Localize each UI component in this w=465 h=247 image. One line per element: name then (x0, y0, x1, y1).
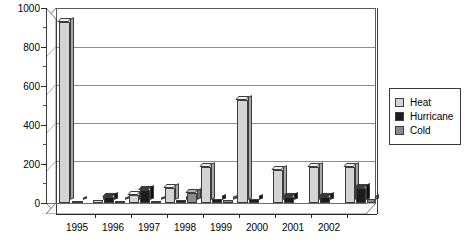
chart-legend: Heat Hurricane Cold (389, 88, 461, 145)
x-axis-label: 2002 (309, 223, 349, 233)
legend-swatch-cold-icon (395, 126, 404, 135)
x-axis-back (46, 203, 367, 204)
y-axis-label: 400 (0, 121, 40, 131)
x-tick (131, 214, 132, 218)
bar-hurricane (356, 188, 366, 203)
y-axis-label: 600 (0, 82, 40, 92)
bar-group (57, 19, 91, 203)
y-axis-label: 800 (0, 43, 40, 53)
plot-area (46, 8, 376, 214)
bar-group (271, 19, 307, 203)
bar-group (127, 19, 163, 203)
bar-heat (309, 167, 319, 203)
bar-heat (201, 167, 211, 203)
y-tick-800 (41, 47, 47, 48)
y-tick-0 (41, 203, 47, 204)
legend-item-hurricane[interactable]: Hurricane (395, 111, 456, 122)
y-tick-400 (41, 125, 47, 126)
x-tick (167, 214, 168, 218)
bar-heat (59, 22, 70, 203)
bar-chart: 1000 800 600 400 200 0 1995 1996 1997 19… (0, 0, 465, 247)
x-axis-label: 1996 (93, 223, 133, 233)
legend-label: Cold (410, 125, 431, 136)
x-axis-label: 1998 (165, 223, 205, 233)
bar-cold (187, 193, 197, 203)
bar-group (163, 19, 199, 203)
x-axis-label: 2001 (273, 223, 313, 233)
bar-heat (345, 167, 355, 203)
x-tick (203, 214, 204, 218)
bar-group (307, 19, 343, 203)
x-tick (311, 214, 312, 218)
legend-swatch-hurricane-icon (395, 112, 404, 121)
x-axis (56, 214, 377, 215)
y-tick-200 (41, 164, 47, 165)
legend-item-heat[interactable]: Heat (395, 97, 456, 108)
y-tick-1000 (41, 8, 47, 9)
bars-container (57, 19, 375, 203)
bar-hurricane (140, 190, 150, 203)
bar-heat (165, 188, 175, 203)
x-axis-label: 2000 (237, 223, 277, 233)
bar-cold (367, 199, 375, 203)
legend-label: Heat (410, 97, 431, 108)
bar-heat (273, 170, 283, 203)
x-tick (275, 214, 276, 218)
y-tick-minor-100 (43, 183, 47, 184)
y-axis-back (46, 8, 47, 204)
x-tick (95, 214, 96, 218)
y-tick-minor-900 (43, 27, 47, 28)
bar-heat (237, 100, 248, 203)
x-axis-label: 1995 (57, 223, 97, 233)
legend-item-cold[interactable]: Cold (395, 125, 456, 136)
x-tick (347, 214, 348, 218)
y-tick-minor-300 (43, 144, 47, 145)
bar-group (199, 19, 235, 203)
y-axis-right (377, 8, 378, 214)
bar-group (235, 19, 271, 203)
y-axis-label: 0 (0, 199, 40, 209)
bar-group (343, 19, 375, 203)
x-axis-label: 1999 (201, 223, 241, 233)
y-axis-label: 200 (0, 160, 40, 170)
bar-group (91, 19, 127, 203)
y-axis-label: 1000 (0, 4, 40, 14)
x-tick (239, 214, 240, 218)
y-tick-minor-500 (43, 105, 47, 106)
x-axis-label: 1997 (129, 223, 169, 233)
y-tick-minor-700 (43, 66, 47, 67)
bar-heat (129, 195, 139, 203)
legend-label: Hurricane (410, 111, 453, 122)
legend-swatch-heat-icon (395, 98, 404, 107)
y-tick-600 (41, 86, 47, 87)
y-axis-front (56, 19, 57, 215)
